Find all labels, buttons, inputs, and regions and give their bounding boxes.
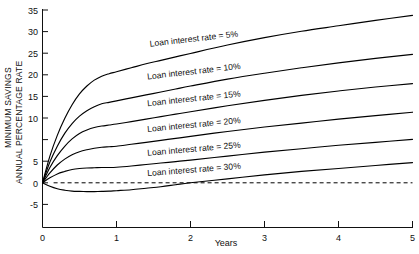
x-tick-label-3: 3 xyxy=(262,233,267,243)
y-tick-label-35: 35 xyxy=(28,6,38,16)
y-tick-label-15: 15 xyxy=(28,92,38,102)
y-tick-label-20: 20 xyxy=(28,70,38,80)
y-axis-title-group: MINIMUM SAVINGS ANNUAL PERCENTAGE RATE xyxy=(3,61,24,184)
y-tick-label-neg5: -5 xyxy=(30,200,38,210)
x-tick-label-0: 0 xyxy=(40,233,45,243)
x-tick-label-5: 5 xyxy=(410,233,415,243)
y-tick-label-5: 5 xyxy=(33,157,38,167)
line-chart: MINIMUM SAVINGS ANNUAL PERCENTAGE RATE 3… xyxy=(0,0,419,254)
y-axis-tick-labels: 35 30 25 20 15 10 5 0 -5 xyxy=(28,6,38,211)
chart-container: MINIMUM SAVINGS ANNUAL PERCENTAGE RATE 3… xyxy=(0,0,419,254)
series-label-2: Loan interest rate = 10% xyxy=(147,61,242,82)
x-tick-label-2: 2 xyxy=(188,233,193,243)
series-label-5: Loan interest rate = 25% xyxy=(147,140,242,158)
x-axis-title: Years xyxy=(215,238,238,248)
x-tick-label-1: 1 xyxy=(114,233,119,243)
y-tick-label-0: 0 xyxy=(33,179,38,189)
y-tick-label-30: 30 xyxy=(28,27,38,37)
y-tick-label-10: 10 xyxy=(28,114,38,124)
y-axis-title-line2: ANNUAL PERCENTAGE RATE xyxy=(14,61,24,184)
y-axis-title-line1: MINIMUM SAVINGS xyxy=(3,67,13,148)
y-tick-label-25: 25 xyxy=(28,49,38,59)
x-axis-ticks xyxy=(43,221,413,228)
x-tick-label-4: 4 xyxy=(336,233,341,243)
